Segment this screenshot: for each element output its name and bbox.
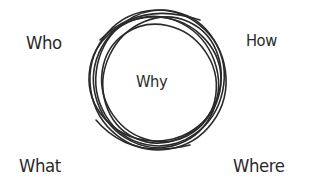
label-where: Where bbox=[233, 155, 284, 176]
diagram-canvas: Who How Why What Where bbox=[0, 0, 309, 194]
label-why: Why bbox=[136, 72, 167, 91]
label-who: Who bbox=[26, 32, 62, 53]
label-what: What bbox=[19, 155, 61, 176]
label-how: How bbox=[246, 31, 277, 50]
